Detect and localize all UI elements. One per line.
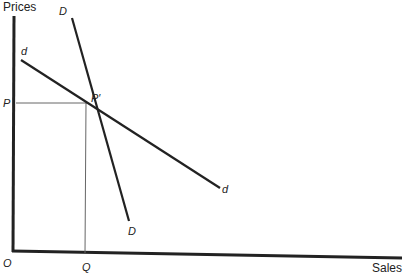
curve-D [72,18,129,221]
origin-label: O [3,258,12,269]
x-axis-label: Sales [372,262,402,274]
curve-D-top-label: D [59,6,67,17]
curve-d-bottom-label: d [222,184,228,195]
curve-d-top-label: d [21,46,27,57]
y-axis-label: Prices [3,1,36,13]
curve-D-bottom-label: D [128,226,136,237]
quantity-label: Q [82,262,91,273]
quantity-guide-line [85,103,86,253]
price-label: P [3,98,10,109]
x-axis [12,251,402,258]
y-axis [13,16,14,252]
intersection-label: P′ [91,93,100,104]
curve-d [21,60,220,188]
